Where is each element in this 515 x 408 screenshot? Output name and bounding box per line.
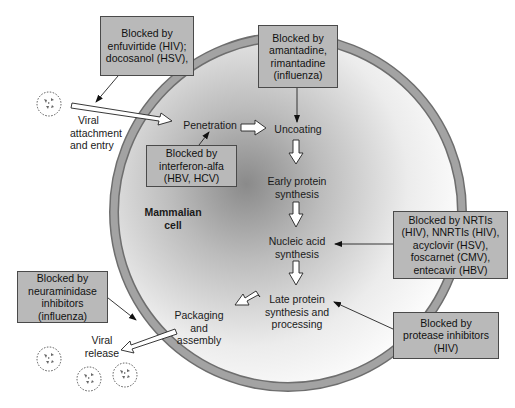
viral-replication-diagram: Blocked by enfuvirtide (HIV); docosanol … [0, 0, 515, 408]
box-line: (influenza) [273, 69, 322, 82]
step-line: and [172, 322, 226, 335]
box-line: neuraminidase [28, 285, 97, 298]
box-line: (influenza) [38, 310, 87, 323]
step-late-protein: Late protein synthesis and processing [262, 293, 332, 331]
step-nucleic-acid: Nucleic acid synthesis [264, 235, 330, 260]
blocker-box-late-protein: Blocked by protease inhibitors (HIV) [393, 312, 499, 359]
box-line: (HBV, HCV) [164, 172, 220, 185]
box-line: Blocked by NRTIs [409, 214, 493, 227]
step-penetration: Penetration [180, 119, 240, 132]
step-line: synthesis [264, 188, 330, 201]
step-line: Packaging [172, 309, 226, 322]
blocker-box-uncoating: Blocked by amantadine, rimantadine (infl… [258, 25, 338, 88]
step-line: Nucleic acid [264, 235, 330, 248]
box-line: protease inhibitors [403, 329, 489, 342]
box-line: (HIV) [434, 342, 459, 355]
step-line: Early protein [264, 175, 330, 188]
blocker-box-release: Blocked by neuraminidase inhibitors (inf… [17, 271, 108, 323]
box-line: Blocked by [420, 317, 471, 330]
cell-label-line: Mammalian [140, 206, 206, 219]
step-line: and entry [70, 139, 122, 152]
box-line: amantadine, [269, 44, 327, 57]
blocker-box-entry: Blocked by enfuvirtide (HIV); docosanol … [100, 16, 194, 76]
box-line: rimantadine [271, 57, 326, 70]
step-viral-attachment: Viral attachment and entry [70, 114, 122, 152]
step-line: release [84, 347, 120, 360]
box-line: acyclovir (HSV), [413, 239, 488, 252]
step-line: processing [262, 318, 332, 331]
step-line: Late protein [262, 293, 332, 306]
step-line: Viral [70, 114, 122, 127]
box-line: Blocked by [272, 32, 323, 45]
box-line: interferon-alfa [159, 160, 224, 173]
cell-label: Mammalian cell [140, 206, 206, 231]
step-line: synthesis and [262, 306, 332, 319]
blocker-box-nucleic-acid: Blocked by NRTIs (HIV), NNRTIs (HIV), ac… [393, 211, 508, 279]
box-line: entecavir (HBV) [413, 264, 487, 277]
box-line: foscarnet (CMV), [411, 251, 490, 264]
box-line: (HIV), NNRTIs (HIV), [402, 226, 500, 239]
box-line: enfuvirtide (HIV); [108, 40, 187, 53]
box-line: docosanol (HSV), [106, 52, 188, 65]
step-line: attachment [70, 127, 122, 140]
box-line: Blocked by [37, 272, 88, 285]
step-line: Uncoating [270, 123, 326, 136]
box-line: Blocked by [166, 147, 217, 160]
cell-label-line: cell [140, 219, 206, 232]
step-line: synthesis [264, 248, 330, 261]
blocker-box-penetration: Blocked by interferon-alfa (HBV, HCV) [146, 145, 237, 187]
step-early-protein: Early protein synthesis [264, 175, 330, 200]
step-viral-release: Viral release [84, 334, 120, 359]
step-line: Penetration [180, 119, 240, 132]
step-line: Viral [84, 334, 120, 347]
box-line: Blocked by [121, 27, 172, 40]
step-uncoating: Uncoating [270, 123, 326, 136]
box-line: inhibitors [41, 297, 83, 310]
step-packaging: Packaging and assembly [172, 309, 226, 347]
step-line: assembly [172, 334, 226, 347]
